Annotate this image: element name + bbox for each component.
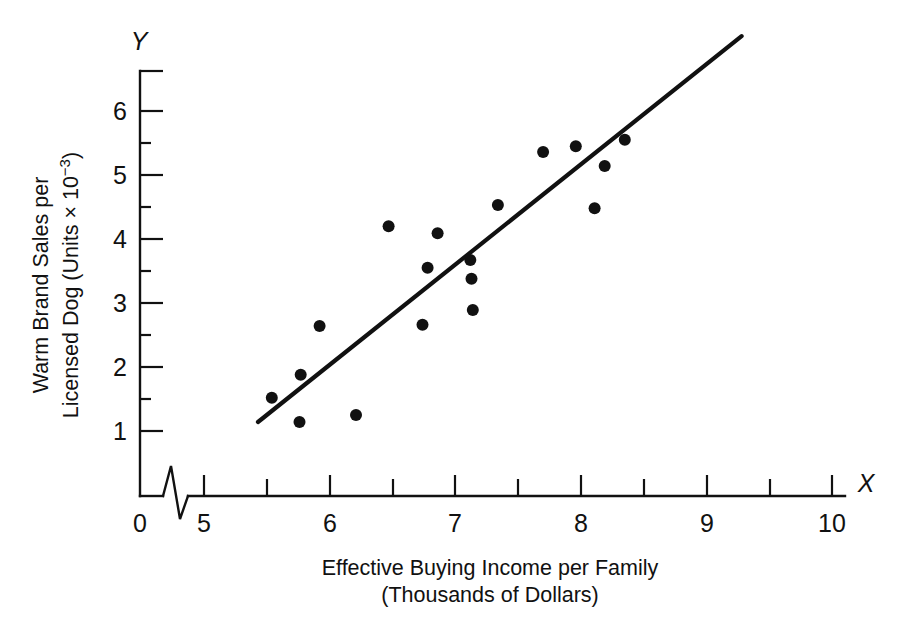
- x-origin-label-0: 0: [133, 509, 147, 537]
- x-tick-label-10: 10: [818, 509, 846, 537]
- data-point: [464, 254, 476, 266]
- y-tick-label-1: 1: [113, 417, 127, 445]
- data-point: [417, 319, 429, 331]
- x-axis-title-line1: Effective Buying Income per Family: [322, 556, 659, 580]
- y-axis-tick-labels: 6 5 4 3 2 1: [113, 97, 127, 445]
- data-point: [314, 320, 326, 332]
- y-axis-title: Warm Brand Sales per Licensed Dog (Units…: [29, 152, 83, 418]
- data-point: [350, 409, 362, 421]
- scatter-plot-figure: 6 5 4 3 2 1 0 5 6 7 8 9: [0, 0, 903, 621]
- chart-canvas: 6 5 4 3 2 1 0 5 6 7 8 9: [0, 0, 903, 621]
- y-tick-label-6: 6: [113, 97, 127, 125]
- x-tick-label-5: 5: [197, 509, 211, 537]
- data-point: [570, 140, 582, 152]
- data-point: [537, 146, 549, 158]
- y-tick-label-4: 4: [113, 225, 127, 253]
- y-axis-title-line2-prefix: Licensed Dog (Units × 10: [59, 176, 83, 418]
- x-axis-break-icon: [163, 466, 188, 519]
- y-axis-ticks: [140, 111, 163, 431]
- data-point: [467, 304, 479, 316]
- x-axis-ticks: [204, 475, 832, 496]
- y-tick-label-3: 3: [113, 289, 127, 317]
- y-axis-title-exponent: −3: [56, 159, 73, 176]
- data-point: [619, 134, 631, 146]
- data-point: [422, 262, 434, 274]
- data-points-group: [266, 134, 631, 428]
- data-point: [295, 369, 307, 381]
- y-tick-label-5: 5: [113, 161, 127, 189]
- data-point: [492, 199, 504, 211]
- axes-group: [140, 71, 845, 519]
- data-point: [466, 273, 478, 285]
- y-tick-label-2: 2: [113, 353, 127, 381]
- x-axis-tick-labels: 0 5 6 7 8 9 10: [133, 509, 846, 537]
- y-axis-title-line2-suffix: ): [59, 152, 83, 159]
- x-axis-letter: X: [857, 469, 876, 497]
- y-axis-title-line2: Licensed Dog (Units × 10−3): [56, 152, 83, 418]
- data-point: [589, 202, 601, 214]
- data-point: [266, 392, 278, 404]
- x-tick-label-6: 6: [323, 509, 337, 537]
- x-tick-label-9: 9: [700, 509, 714, 537]
- data-point: [294, 416, 306, 428]
- data-point: [432, 227, 444, 239]
- x-axis-title: Effective Buying Income per Family (Thou…: [322, 556, 659, 607]
- regression-line: [258, 36, 742, 422]
- data-point: [383, 220, 395, 232]
- x-tick-label-8: 8: [574, 509, 588, 537]
- x-tick-label-7: 7: [448, 509, 462, 537]
- y-axis-letter: Y: [131, 27, 150, 55]
- y-axis-title-line1: Warm Brand Sales per: [29, 177, 53, 394]
- data-point: [599, 160, 611, 172]
- x-axis-title-line2: (Thousands of Dollars): [381, 583, 598, 607]
